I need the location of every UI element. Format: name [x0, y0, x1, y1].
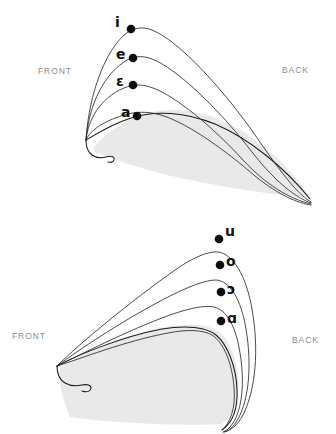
vowel-dot-o — [216, 261, 225, 270]
vowel-dot-u — [215, 235, 224, 244]
vowel-dot-open-o — [217, 288, 226, 297]
vowel-dot-a — [133, 112, 142, 121]
vowel-label-alpha: ɑ — [227, 311, 237, 325]
vowel-dot-i — [127, 25, 136, 34]
vowel-dot-e — [129, 54, 138, 63]
front-vowel-diagram-svg — [0, 0, 336, 217]
vowel-label-a: a — [121, 105, 130, 119]
vowel-dot-epsilon — [129, 81, 138, 90]
vowel-tongue-position-figure: FRONT BACK i e ɛ a — [0, 0, 336, 434]
vowel-label-epsilon: ɛ — [116, 74, 124, 88]
orientation-label-back: BACK — [282, 65, 309, 75]
vowel-label-u: u — [225, 224, 235, 238]
tongue-body-fill — [93, 110, 310, 197]
panel-front-vowels: FRONT BACK i e ɛ a — [0, 0, 336, 217]
orientation-label-back: BACK — [292, 335, 319, 345]
vowel-label-i: i — [115, 15, 120, 29]
orientation-label-front: FRONT — [38, 66, 72, 76]
vowel-dot-alpha — [217, 317, 226, 326]
vowel-label-open-o: ɔ — [227, 282, 235, 296]
orientation-label-front: FRONT — [12, 331, 46, 341]
back-vowel-diagram-svg — [0, 217, 336, 434]
vowel-label-e: e — [116, 47, 126, 61]
vowel-label-o: o — [226, 254, 236, 268]
panel-back-vowels: FRONT BACK u o ɔ ɑ — [0, 217, 336, 434]
